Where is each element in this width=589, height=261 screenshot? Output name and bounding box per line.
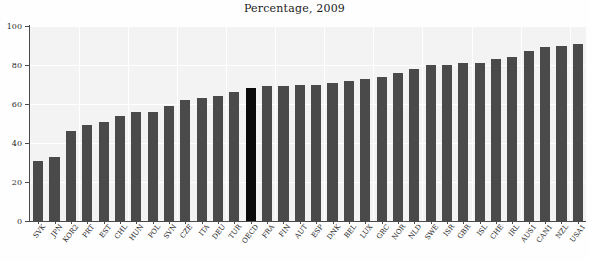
y-axis-tick-mark — [25, 182, 29, 183]
x-axis-label-gbr: GBR — [456, 223, 472, 241]
x-axis-tick-mark — [202, 221, 203, 224]
bar-aut — [295, 85, 305, 222]
bar-aus1 — [524, 51, 534, 221]
bar-che — [491, 59, 501, 221]
bar-nor — [393, 73, 403, 221]
x-axis-label-oecd: OECD — [240, 223, 260, 245]
y-axis-tick-mark — [25, 143, 29, 144]
x-axis-label-svn: SVN — [162, 223, 178, 241]
bar-isl — [475, 63, 485, 221]
bar-lux — [360, 79, 370, 221]
x-axis-label-can1: CAN1 — [535, 223, 554, 244]
bar-kor2 — [66, 131, 76, 221]
y-axis-tick-label: 40 — [12, 139, 22, 148]
x-axis-tick-mark — [529, 221, 530, 224]
y-axis-tick-label: 20 — [12, 178, 22, 187]
x-axis-label-kor2: KOR2 — [61, 223, 80, 244]
bar-prt — [82, 125, 92, 221]
x-axis-label-svk: SVK — [32, 223, 48, 240]
x-axis-tick-mark — [153, 221, 154, 224]
y-axis-tick-labels: 020406080100 — [0, 0, 30, 261]
bar-bel — [344, 81, 354, 221]
y-axis-tick-mark — [25, 26, 29, 27]
x-axis-label-nld: NLD — [407, 223, 423, 241]
chart-title: Percentage, 2009 — [0, 2, 589, 15]
x-axis-label-bel: BEL — [343, 223, 358, 240]
x-axis-tick-mark — [578, 221, 579, 224]
bar-can1 — [540, 47, 550, 221]
x-axis-label-isr: ISR — [442, 223, 456, 238]
bar-fra — [262, 86, 272, 221]
bar-chl — [115, 116, 125, 221]
x-axis-label-ita: ITA — [197, 223, 211, 237]
x-axis-label-nor: NOR — [390, 223, 407, 241]
x-axis-label-grc: GRC — [375, 223, 391, 241]
bar-tur — [229, 92, 239, 221]
bar-isr — [442, 65, 452, 221]
x-axis-label-irl: IRL — [508, 223, 522, 238]
x-axis-label-deu: DEU — [211, 223, 228, 241]
x-axis-label-prt: PRT — [81, 223, 96, 239]
x-axis-tick-mark — [120, 221, 121, 224]
bars-layer — [30, 26, 586, 221]
x-axis-label-che: CHE — [489, 223, 506, 241]
bar-svn — [164, 106, 174, 221]
x-axis-label-fin: FIN — [278, 223, 293, 239]
chart-container: Percentage, 2009 020406080100 SVKJPNKOR2… — [0, 0, 589, 261]
bar-grc — [377, 77, 387, 221]
bar-pol — [148, 112, 158, 221]
x-axis-tick-mark — [431, 221, 432, 224]
bar-svk — [33, 161, 43, 221]
x-axis-label-chl: CHL — [113, 223, 129, 241]
x-axis-label-est: EST — [98, 223, 113, 239]
bar-swe — [426, 65, 436, 221]
x-axis-label-aut: AUT — [293, 223, 309, 240]
bar-est — [99, 122, 109, 221]
x-axis-tick-mark — [251, 221, 252, 224]
bar-hun — [131, 112, 141, 221]
x-axis-tick-mark — [300, 221, 301, 224]
x-axis-label-isl: ISL — [475, 223, 489, 238]
x-axis-label-jpn: JPN — [49, 223, 64, 239]
bar-nzl — [556, 46, 566, 222]
y-axis-tick-mark — [25, 104, 29, 105]
x-axis-label-fra: FRA — [261, 223, 277, 240]
bar-esp — [311, 85, 321, 222]
x-axis-tick-mark — [55, 221, 56, 224]
bar-jpn — [49, 157, 59, 221]
x-axis-label-aus1: AUS1 — [519, 223, 538, 244]
x-axis-tick-mark — [398, 221, 399, 224]
x-axis-label-esp: ESP — [310, 223, 325, 239]
x-axis-label-hun: HUN — [128, 223, 145, 242]
bar-ita — [197, 98, 207, 221]
bar-fin — [278, 86, 288, 221]
x-axis-tick-mark — [104, 221, 105, 224]
bar-gbr — [458, 63, 468, 221]
x-axis-label-swe: SWE — [423, 223, 440, 241]
x-axis-line — [29, 221, 586, 222]
bar-oecd — [246, 88, 256, 221]
y-axis-tick-label: 100 — [7, 22, 22, 31]
y-axis-tick-mark — [25, 65, 29, 66]
bar-nld — [409, 69, 419, 221]
x-axis-tick-mark — [480, 221, 481, 224]
bar-usa1 — [573, 44, 583, 221]
bar-irl — [507, 57, 517, 221]
x-axis-label-usa1: USA1 — [568, 223, 587, 244]
bar-cze — [180, 100, 190, 221]
x-axis-tick-mark — [382, 221, 383, 224]
x-axis-label-dnk: DNK — [325, 223, 342, 241]
y-axis-tick-mark — [25, 221, 29, 222]
x-axis-label-cze: CZE — [179, 223, 195, 240]
x-axis-label-lux: LUX — [359, 223, 375, 240]
x-axis-label-pol: POL — [146, 223, 162, 240]
bar-deu — [213, 96, 223, 221]
y-axis-tick-label: 60 — [12, 100, 22, 109]
x-axis-tick-labels: SVKJPNKOR2PRTESTCHLHUNPOLSVNCZEITADEUTUR… — [30, 223, 586, 261]
x-axis-tick-mark — [349, 221, 350, 224]
x-axis-tick-mark — [71, 221, 72, 224]
bar-dnk — [327, 83, 337, 221]
x-axis-tick-mark — [333, 221, 334, 224]
y-axis-tick-label: 0 — [17, 217, 22, 226]
y-axis-tick-label: 80 — [12, 61, 22, 70]
